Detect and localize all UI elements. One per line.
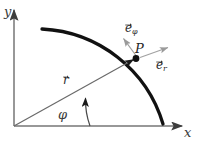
figure-canvas bbox=[0, 0, 198, 141]
vector-arrow-overbar-icon bbox=[63, 74, 69, 79]
vector-arrow-overbar-icon bbox=[125, 22, 132, 27]
x-axis-label: x bbox=[184, 126, 191, 139]
vector-arrow-overbar-icon bbox=[156, 59, 163, 64]
position-vector-r bbox=[14, 60, 134, 127]
vector-e-phi-label: e φ bbox=[125, 22, 138, 36]
vector-r-glyph: r bbox=[63, 74, 69, 86]
vector-e-phi-subscript: φ bbox=[132, 27, 138, 36]
vector-r-label: r bbox=[63, 74, 69, 86]
vector-e-phi-glyph: e bbox=[125, 22, 132, 34]
vector-e-r-glyph: e bbox=[156, 59, 163, 71]
angle-arc-phi bbox=[85, 99, 90, 127]
vector-e-r-subscript: r bbox=[163, 64, 167, 73]
point-p-marker bbox=[133, 55, 140, 62]
y-axis-label: y bbox=[4, 5, 11, 18]
unit-vector-e-r bbox=[140, 48, 168, 58]
polar-coordinates-figure: y x P φ r e φ e bbox=[0, 0, 198, 141]
vector-e-r-label: e r bbox=[156, 59, 167, 73]
point-p-label: P bbox=[135, 42, 144, 55]
angle-phi-label: φ bbox=[58, 108, 67, 121]
